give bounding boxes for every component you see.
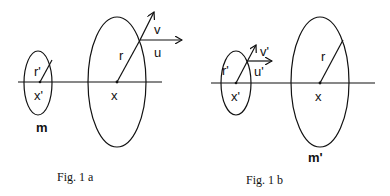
large-center-label: x xyxy=(111,88,118,103)
vector-v-prime-label: v' xyxy=(260,44,269,59)
vector-v-arrow xyxy=(140,12,154,40)
figure-1a: r' x' m r x v u Fig. 1 a xyxy=(18,12,182,184)
small-radius-line xyxy=(236,60,248,83)
large-center-dot xyxy=(116,81,119,84)
vector-u-prime-label: u' xyxy=(254,64,264,79)
large-center-dot xyxy=(319,82,322,85)
large-radius-label: r xyxy=(321,49,326,64)
large-center-label: x xyxy=(315,89,322,104)
small-radius-label: r' xyxy=(222,63,229,78)
small-body-ellipse xyxy=(24,51,52,115)
small-center-dot xyxy=(235,82,238,85)
large-radius-label: r xyxy=(119,48,124,63)
small-mass-label: m xyxy=(36,120,48,135)
figure-1b: r' x' r x m' v' u' Fig. 1 b xyxy=(211,17,375,187)
figure-caption: Fig. 1 a xyxy=(57,170,94,184)
figure-caption: Fig. 1 b xyxy=(246,173,283,187)
small-center-label: x' xyxy=(231,89,240,104)
vector-v-label: v xyxy=(154,22,161,37)
small-center-dot xyxy=(39,81,42,84)
large-mass-label: m' xyxy=(308,150,323,165)
vector-v-prime-arrow xyxy=(248,45,256,60)
diagram-canvas: r' x' m r x v u Fig. 1 a r' x' r x m' xyxy=(0,0,390,196)
small-radius-line xyxy=(40,60,52,82)
vector-u-label: u xyxy=(154,45,161,60)
small-center-label: x' xyxy=(34,88,43,103)
small-radius-label: r' xyxy=(34,64,41,79)
